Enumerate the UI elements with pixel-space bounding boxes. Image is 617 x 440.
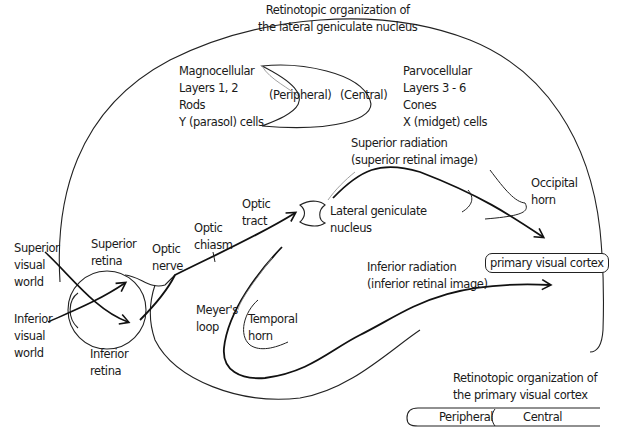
brain-outline xyxy=(59,19,603,352)
lgn-title-line1: Retinotopic organization of xyxy=(258,2,417,19)
inferior-visual-world-label: Inferior visual world xyxy=(14,311,52,362)
optic-chiasm-label: Optic chiasm xyxy=(194,220,233,254)
optic-tract-label: Optic tract xyxy=(242,196,270,230)
v1-peripheral-label: Peripheral xyxy=(439,409,493,426)
optic-nerve-label: Optic nerve xyxy=(152,241,183,275)
parvocellular-label: Parvocellular Layers 3 - 6 Cones X (midg… xyxy=(403,63,487,131)
lgn-peripheral-label: (Peripheral) xyxy=(269,87,331,104)
inferior-world-ray xyxy=(48,283,125,322)
superior-radiation-label: Superior radiation (superior retinal ima… xyxy=(351,135,478,169)
primary-visual-cortex-box: primary visual cortex xyxy=(485,253,609,273)
superior-retina-label: Superior retina xyxy=(91,236,136,270)
v1-organization-title: Retinotopic organization of the primary … xyxy=(453,370,597,404)
inferior-retina-label: Inferior retina xyxy=(90,346,128,380)
lgn-title-line2: the lateral geniculate nucleus xyxy=(258,19,417,36)
superior-visual-world-label: Superior visual world xyxy=(14,240,59,291)
v1-central-label: Central xyxy=(523,409,562,426)
lgn-organization-title: Retinotopic organization of the lateral … xyxy=(258,2,417,36)
lgn-central-label: (Central) xyxy=(340,87,387,104)
temporal-horn-label: Temporal horn xyxy=(248,311,297,345)
occipital-horn-label: Occipital horn xyxy=(531,175,578,209)
occipital-horn xyxy=(485,170,526,219)
meyers-loop-label: Meyer's loop xyxy=(196,302,238,336)
v1-bar xyxy=(407,408,600,426)
magnocellular-label: Magnocellular Layers 1, 2 Rods Y (paraso… xyxy=(179,63,264,131)
inferior-radiation-label: Inferior radiation (inferior retinal ima… xyxy=(367,259,488,293)
lateral-geniculate-label: Lateral geniculate nucleus xyxy=(330,203,427,237)
lgn-body xyxy=(300,201,325,226)
